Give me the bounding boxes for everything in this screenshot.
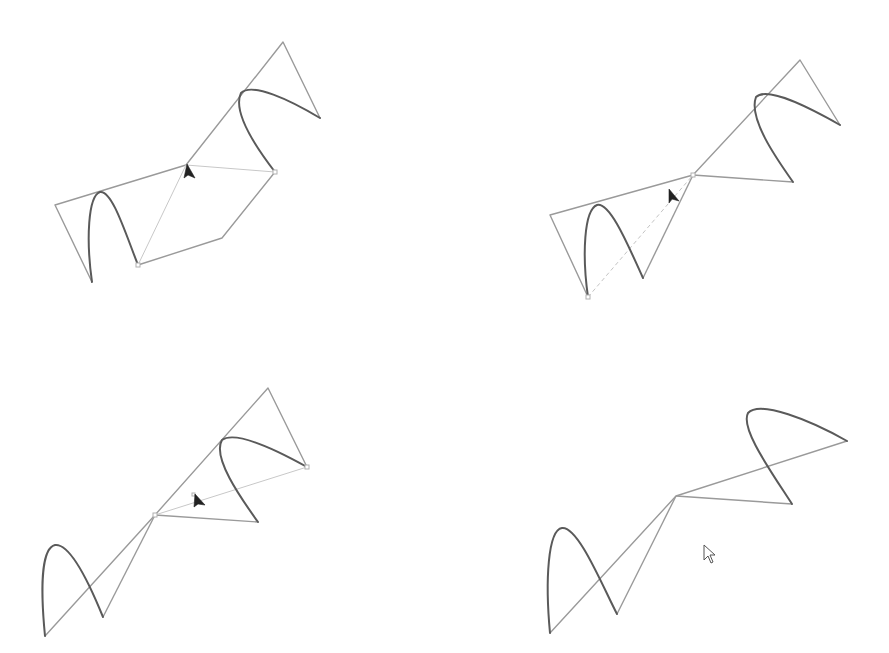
spline-curve [220,437,307,522]
control-edge [643,175,693,278]
control-edge [155,515,258,522]
panel-3[interactable] [42,388,309,636]
cursor-arrow-icon [194,494,205,507]
guide-line [186,165,275,172]
control-point-handle[interactable] [305,465,309,469]
panel-4[interactable] [548,409,847,633]
control-edge [676,496,792,504]
control-point-handle[interactable] [153,513,157,517]
control-polygon[interactable] [45,388,307,636]
guide-line [138,165,186,265]
panel-2[interactable] [550,60,840,299]
control-edge [103,515,155,617]
control-point-handle[interactable] [192,493,195,496]
control-point-handle[interactable] [691,173,695,177]
control-edge [617,496,676,614]
spline-curve [548,528,617,633]
control-point-handle[interactable] [586,295,590,299]
spline-editor-canvas[interactable] [0,0,889,653]
guide-line [155,467,307,515]
control-edge [693,175,793,182]
control-polygon[interactable] [550,60,840,297]
spline-curve [239,90,320,172]
control-point-handle[interactable] [273,170,277,174]
control-point-handle[interactable] [136,263,140,267]
control-polygon[interactable] [550,441,847,633]
spline-curve [89,192,138,282]
spline-curve [42,545,103,636]
panel-1[interactable] [55,42,320,282]
cursor-arrow-icon [704,545,715,563]
control-polygon[interactable] [55,42,320,282]
cursor-arrow-icon [669,189,679,203]
spline-curve [755,94,840,182]
spline-curve [585,205,643,297]
guide-polygon [138,172,275,265]
guide-line [588,175,693,297]
